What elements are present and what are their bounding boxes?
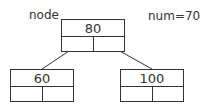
left-left-pointer bbox=[11, 86, 43, 101]
right-left-pointer bbox=[121, 86, 153, 101]
node-label: node bbox=[29, 9, 59, 21]
root-left-pointer bbox=[62, 36, 94, 51]
root-value: 80 bbox=[62, 20, 124, 37]
right-right-pointer bbox=[152, 86, 183, 101]
num-label: num=70 bbox=[148, 10, 200, 22]
right-value: 100 bbox=[121, 70, 183, 87]
root-node: 80 bbox=[61, 19, 125, 52]
left-node: 60 bbox=[10, 69, 74, 102]
left-value: 60 bbox=[11, 70, 73, 87]
left-right-pointer bbox=[42, 86, 73, 101]
right-node: 100 bbox=[120, 69, 184, 102]
root-right-pointer bbox=[93, 36, 124, 51]
